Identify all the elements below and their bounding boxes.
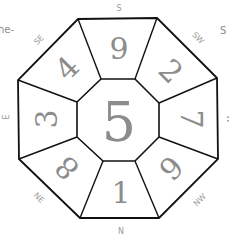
- direction-label-n: N: [118, 227, 124, 236]
- spoke: [135, 161, 159, 218]
- direction-label-s: S: [116, 4, 121, 13]
- sector-number-sw: 2: [152, 52, 190, 90]
- direction-label-e: E: [2, 114, 11, 119]
- direction-label-sw: SW: [190, 30, 206, 46]
- sector-number-w: 7: [174, 109, 209, 128]
- sector-number-e: 3: [29, 109, 64, 128]
- sector-number-nw: 6: [152, 149, 190, 187]
- center-number: 5: [102, 91, 136, 154]
- title-fragment-left: he-: [0, 24, 14, 35]
- direction-label-ne: NE: [32, 191, 46, 205]
- sector-number-s: 9: [109, 31, 128, 66]
- spoke: [80, 161, 103, 218]
- direction-label-w: W: [225, 115, 230, 123]
- bagua-diagram: he- S 5 9 2 7 6 1 8 3 4 S SW W NW N NE E…: [0, 0, 229, 239]
- sector-number-ne: 8: [48, 149, 86, 187]
- spoke: [135, 18, 157, 79]
- direction-label-se: SE: [32, 33, 46, 47]
- sector-number-se: 4: [48, 49, 86, 87]
- sector-number-n: 1: [111, 175, 130, 210]
- direction-label-nw: NW: [192, 192, 208, 208]
- title-fragment-right: S: [220, 25, 226, 36]
